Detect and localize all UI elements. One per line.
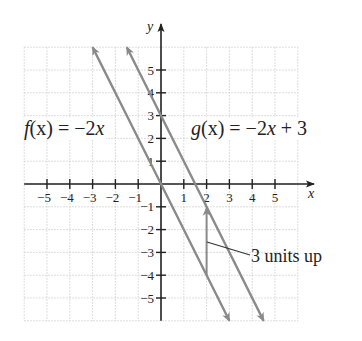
y-tick-label: −2 xyxy=(140,222,154,237)
x-tick-label: −4 xyxy=(60,190,74,205)
x-tick-label: 3 xyxy=(226,190,233,205)
y-tick-label: −5 xyxy=(140,291,154,306)
f-label: f(x) = −2x xyxy=(24,117,106,139)
y-tick-label: −1 xyxy=(140,199,154,214)
y-tick-label: 5 xyxy=(148,63,155,78)
x-tick-label: −2 xyxy=(105,190,119,205)
x-tick-label: 5 xyxy=(272,190,279,205)
coordinate-plane: −5−4−3−2−112345−5−4−3−2−112345xy xyxy=(0,0,362,341)
g-rhs: = −2 xyxy=(224,117,267,139)
x-tick-label: −3 xyxy=(83,190,97,205)
f-var: x xyxy=(95,117,104,139)
x-axis-label: x xyxy=(307,186,315,201)
y-tick-label: −3 xyxy=(140,245,154,260)
x-tick-label: −5 xyxy=(37,190,51,205)
g-arg: (x) xyxy=(201,117,224,139)
x-tick-label: 1 xyxy=(181,190,188,205)
g-var: x xyxy=(267,117,276,139)
annotation-text: 3 units up xyxy=(251,246,322,266)
y-axis-label: y xyxy=(145,19,154,34)
x-tick-label: 4 xyxy=(249,190,256,205)
y-tick-label: −4 xyxy=(140,268,154,283)
g-name: g xyxy=(191,117,201,139)
y-tick-label: 2 xyxy=(148,131,155,146)
g-tail: + 3 xyxy=(276,117,307,139)
f-rhs: = −2 xyxy=(53,117,96,139)
f-arg: (x) xyxy=(30,117,53,139)
y-tick-label: 3 xyxy=(148,108,155,123)
g-label: g(x) = −2x + 3 xyxy=(189,117,309,139)
